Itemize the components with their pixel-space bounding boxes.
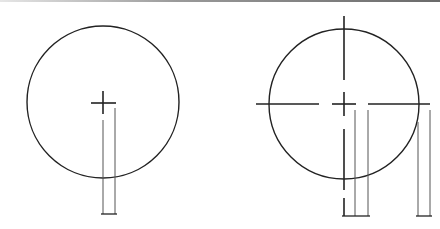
right-figure	[256, 16, 432, 216]
drafting-diagram	[0, 0, 440, 229]
right-extension-lines	[342, 110, 432, 216]
left-extension-lines	[101, 108, 117, 214]
left-center-mark	[91, 91, 116, 114]
left-figure	[27, 26, 179, 214]
right-centerlines	[256, 16, 430, 216]
